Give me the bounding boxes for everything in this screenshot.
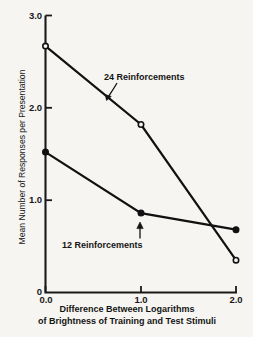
series-24-point-1 (138, 122, 143, 127)
arrow-12-head (137, 222, 143, 229)
series-12-point-0 (43, 149, 49, 155)
x-axis-title-line-1: Difference Between Logarithms (8, 304, 246, 316)
annotation-arrows (105, 83, 143, 239)
x-axis-title: Difference Between Logarithms of Brightn… (8, 304, 246, 327)
y-axis-title: Mean Number of Responses per Presentatio… (17, 52, 27, 262)
series-24-point-2 (233, 258, 238, 263)
y-tick-label-3: 3.0 (14, 10, 42, 21)
figure-container: 3.0 2.0 1.0 0 0.0 1.0 2.0 Mean Number of… (0, 0, 253, 337)
series-12-point-2 (233, 227, 239, 233)
axis-frame (46, 16, 238, 293)
series-24-point-0 (43, 43, 48, 48)
series-label-24-reinforcements: 24 Reinforcements (104, 72, 185, 82)
series-12-point-1 (138, 210, 144, 216)
series-12-reinforcements (43, 149, 239, 232)
series-label-12-reinforcements: 12 Reinforcements (62, 240, 143, 250)
axis-lines (46, 16, 238, 293)
x-axis-title-line-2: of Brightness of Training and Test Stimu… (8, 316, 246, 328)
